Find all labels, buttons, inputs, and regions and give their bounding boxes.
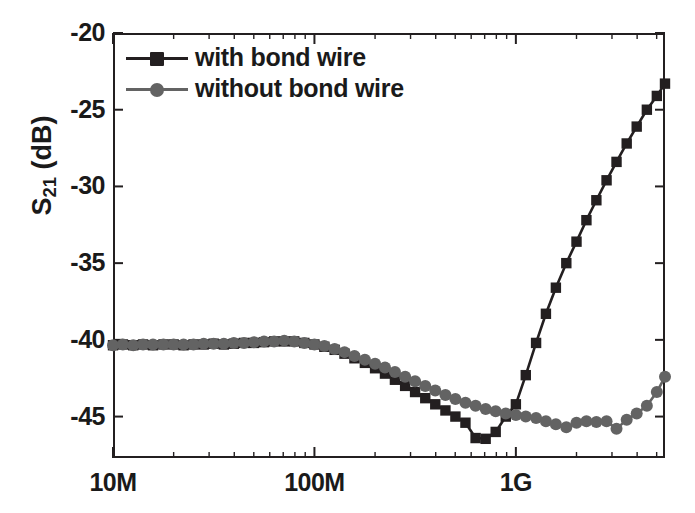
series-without-bond-wire bbox=[107, 335, 671, 435]
series-with-bond-wire bbox=[108, 78, 670, 444]
circle-marker-icon bbox=[150, 83, 164, 97]
x-tick-label: 100M bbox=[264, 470, 364, 495]
legend-item-without-bond-wire: without bond wire bbox=[126, 73, 391, 104]
data-series bbox=[107, 78, 671, 444]
legend-swatch-square bbox=[126, 48, 188, 68]
y-tick-label: -35 bbox=[55, 250, 105, 275]
y-tick-label: -30 bbox=[55, 173, 105, 198]
y-tick-label: -40 bbox=[55, 327, 105, 352]
legend-label-with-bond-wire: with bond wire bbox=[195, 45, 366, 70]
legend-label-without-bond-wire: without bond wire bbox=[195, 76, 404, 101]
y-tick-label: -25 bbox=[55, 97, 105, 122]
x-tick-label: 1G bbox=[466, 470, 566, 495]
legend-swatch-circle bbox=[126, 79, 188, 99]
legend-item-with-bond-wire: with bond wire bbox=[126, 42, 391, 73]
chart-figure: S21 (dB) -20-25-30-35-40-45 10M100M1G wi… bbox=[0, 0, 695, 513]
chart-legend: with bond wire without bond wire bbox=[126, 42, 391, 104]
square-marker-icon bbox=[150, 52, 164, 66]
y-tick-label: -45 bbox=[55, 404, 105, 429]
x-tick-label: 10M bbox=[63, 470, 163, 495]
y-tick-label: -20 bbox=[55, 20, 105, 45]
